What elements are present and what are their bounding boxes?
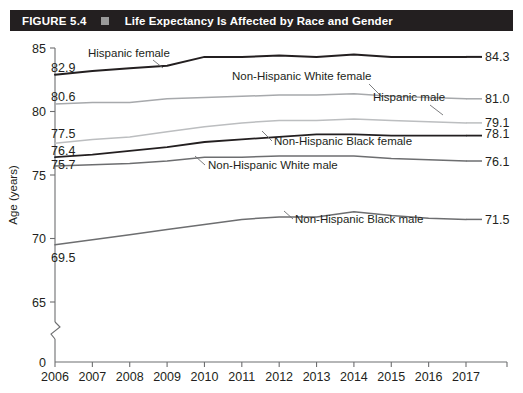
x-axis-tick-label: 2009 bbox=[153, 370, 181, 384]
x-axis-tick-label: 2015 bbox=[377, 370, 405, 384]
x-axis-tick-label: 2013 bbox=[303, 370, 331, 384]
figure-title-bar: FIGURE 5.4 Life Expectancy Is Affected b… bbox=[10, 10, 513, 31]
x-axis-tick-label: 2010 bbox=[191, 370, 219, 384]
x-axis-tick-label: 2014 bbox=[340, 370, 368, 384]
end-value-label: 76.1 bbox=[485, 155, 509, 169]
figure-number-label: FIGURE 5.4 bbox=[22, 15, 87, 27]
series-label-leader bbox=[284, 211, 293, 219]
figure-title-text: Life Expectancy Is Affected by Race and … bbox=[125, 15, 393, 27]
y-axis-tick-label: 80 bbox=[32, 105, 46, 119]
end-value-label: 84.3 bbox=[485, 50, 509, 64]
x-axis-tick-label: 2012 bbox=[265, 370, 293, 384]
y-axis-break-icon bbox=[51, 322, 60, 339]
x-axis-tick-label: 2011 bbox=[228, 370, 255, 384]
y-axis-tick-label: 65 bbox=[32, 296, 46, 310]
y-axis-tick-label: 85 bbox=[32, 42, 46, 56]
y-axis-title: Age (years) bbox=[7, 165, 19, 225]
y-axis-tick-label: 70 bbox=[32, 232, 46, 246]
start-value-label: 82.9 bbox=[51, 61, 75, 75]
y-axis-tick-label: 0 bbox=[39, 356, 46, 370]
line-chart: 06570758085Age (years)200620072008200920… bbox=[0, 31, 523, 393]
series-label-non-hispanic-black-male: Non-Hispanic Black male bbox=[295, 213, 423, 225]
x-axis-tick-label: 2008 bbox=[116, 370, 144, 384]
series-label-non-hispanic-white-female: Non-Hispanic White female bbox=[232, 70, 371, 82]
series-label-non-hispanic-white-male: Non-Hispanic White male bbox=[208, 159, 338, 171]
start-value-label: 77.5 bbox=[51, 127, 75, 141]
start-value-label: 80.6 bbox=[51, 90, 75, 104]
x-axis-tick-label: 2016 bbox=[415, 370, 443, 384]
x-axis-tick-label: 2007 bbox=[78, 370, 106, 384]
end-value-label: 78.1 bbox=[485, 127, 509, 141]
start-value-label: 75.7 bbox=[51, 158, 75, 172]
start-value-label: 69.5 bbox=[51, 251, 75, 265]
series-label-hispanic-female: Hispanic female bbox=[88, 47, 170, 59]
start-value-label: 76.4 bbox=[51, 144, 75, 158]
x-axis-tick-label: 2017 bbox=[452, 370, 480, 384]
series-label-hispanic-male: Hispanic male bbox=[373, 91, 445, 103]
y-axis-tick-label: 75 bbox=[32, 169, 46, 183]
series-label-leader bbox=[430, 105, 443, 115]
series-label-non-hispanic-black-female: Non-Hispanic Black female bbox=[274, 135, 412, 147]
title-square-icon bbox=[101, 17, 109, 25]
x-axis-tick-label: 2006 bbox=[41, 370, 69, 384]
figure-container: FIGURE 5.4 Life Expectancy Is Affected b… bbox=[0, 0, 523, 393]
end-value-label: 81.0 bbox=[485, 92, 509, 106]
end-value-label: 71.5 bbox=[485, 213, 509, 227]
series-label-leader bbox=[262, 131, 272, 141]
